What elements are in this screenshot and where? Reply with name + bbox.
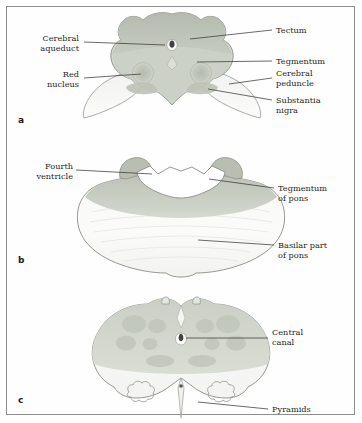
label-pyramids: Pyramids xyxy=(272,404,354,414)
panel-b-pons: Fourth ventricle Tegmentum of pons Basil… xyxy=(0,140,362,288)
label-cerebral-peduncle: Cerebral peduncle xyxy=(276,68,356,89)
anterior-spinal-artery xyxy=(179,384,183,388)
label-tegmentum: Tegmentum xyxy=(276,56,356,66)
panel-a-midbrain: Cerebral aqueduct Red nucleus Tectum Teg… xyxy=(0,0,362,145)
label-basilar-part-of-pons: Basilar part of pons xyxy=(278,240,360,261)
label-tectum: Tectum xyxy=(276,25,356,35)
panel-letter-a: a xyxy=(18,115,24,125)
anterior-median-fissure xyxy=(178,378,184,418)
panel-c-medulla: Central canal Pyramids xyxy=(0,282,362,423)
gracile-tubercle-right-shape xyxy=(193,297,201,304)
label-fourth-ventricle: Fourth ventricle xyxy=(3,161,73,182)
label-tegmentum-of-pons: Tegmentum of pons xyxy=(278,183,360,204)
brainstem-cross-sections-figure: Cerebral aqueduct Red nucleus Tectum Teg… xyxy=(0,0,362,423)
label-cerebral-aqueduct: Cerebral aqueduct xyxy=(9,33,79,54)
label-red-nucleus: Red nucleus xyxy=(9,69,79,90)
panel-letter-b: b xyxy=(18,255,24,265)
red-nucleus-left-shape xyxy=(133,63,154,84)
medulla-drawing xyxy=(0,282,362,423)
red-nucleus-right-shape xyxy=(191,63,212,84)
label-substantia-nigra: Substantia nigra xyxy=(276,95,356,116)
panel-letter-c: c xyxy=(18,395,23,405)
gracile-tubercle-left-shape xyxy=(162,297,170,304)
label-central-canal: Central canal xyxy=(272,327,354,348)
leader-pyramids xyxy=(198,402,268,409)
